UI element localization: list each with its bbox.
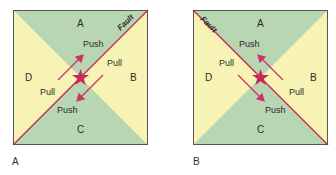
quadrant-b-label: B [310,73,317,83]
push-top-label: Push [239,40,260,49]
quadrant-d-label: D [205,73,212,83]
quadrant-a-label: A [257,19,264,29]
panel-b-diagram: A B C D Push Pull Pull Push Fault [193,10,328,145]
pull-left-label: Pull [219,59,234,68]
pull-right-label: Pull [289,88,304,97]
panel-a-caption: A [12,156,19,167]
pull-right-label: Pull [107,59,122,68]
quadrant-b-label: B [130,73,137,83]
quadrant-d-label: D [25,73,32,83]
pull-left-label: Pull [40,88,55,97]
panel-a-diagram: A B C D Push Pull Pull Push Fault [13,10,148,145]
push-bottom-label: Push [57,106,78,115]
push-bottom-label: Push [265,106,286,115]
push-top-label: Push [83,40,104,49]
quadrant-a-label: A [77,19,84,29]
quadrant-c-label: C [257,125,264,135]
panel-b-caption: B [193,156,200,167]
quadrant-c-label: C [77,125,84,135]
